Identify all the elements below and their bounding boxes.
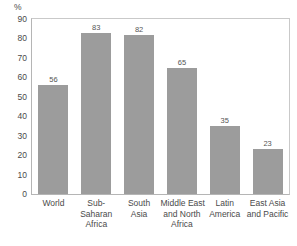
- x-axis-category-label: East Asiaand Pacific: [246, 198, 289, 219]
- category-label-line: Middle East: [161, 198, 204, 209]
- y-axis-tick-90: 90: [0, 15, 27, 24]
- x-axis-category-label: SouthAsia: [118, 198, 161, 219]
- category-label-line: East Asia: [246, 198, 289, 209]
- y-axis-tick-50: 50: [0, 92, 27, 101]
- category-label-line: Africa: [75, 219, 118, 230]
- category-label-line: South: [118, 198, 161, 209]
- bar-value-label: 82: [124, 25, 154, 34]
- bar-group: 23: [253, 19, 283, 194]
- bar-group: 56: [38, 19, 68, 194]
- bars-area: 568382653523: [32, 19, 289, 194]
- bar: [167, 68, 197, 194]
- bar-value-label: 56: [38, 75, 68, 84]
- category-label-line: Latin: [203, 198, 246, 209]
- x-axis-category-label: World: [32, 198, 75, 209]
- category-label-line: and North: [161, 209, 204, 220]
- bar-value-label: 65: [167, 58, 197, 67]
- category-label-line: Sub-: [75, 198, 118, 209]
- bar: [124, 35, 154, 194]
- bar-group: 65: [167, 19, 197, 194]
- bar: [210, 126, 240, 194]
- bar-group: 82: [124, 19, 154, 194]
- bar-value-label: 35: [210, 116, 240, 125]
- y-axis-unit-label: %: [14, 2, 22, 12]
- bar: [38, 85, 68, 194]
- y-axis-tick-80: 80: [0, 34, 27, 43]
- bar-group: 35: [210, 19, 240, 194]
- category-label-line: and Pacific: [246, 209, 289, 220]
- x-axis-category-labels: WorldSub-SaharanAfricaSouthAsiaMiddle Ea…: [32, 198, 289, 246]
- bar-chart: % 0102030405060708090 568382653523 World…: [0, 0, 297, 246]
- bar-value-label: 83: [81, 23, 111, 32]
- category-label-line: Asia: [118, 209, 161, 220]
- y-axis-tick-0: 0: [0, 190, 27, 199]
- y-axis-tick-60: 60: [0, 73, 27, 82]
- y-axis-tick-70: 70: [0, 53, 27, 62]
- bar: [81, 33, 111, 194]
- x-axis-category-label: Sub-SaharanAfrica: [75, 198, 118, 230]
- bar-group: 83: [81, 19, 111, 194]
- x-axis-category-label: LatinAmerica: [203, 198, 246, 219]
- category-label-line: World: [32, 198, 75, 209]
- y-axis-tick-labels: 0102030405060708090: [0, 18, 27, 195]
- y-axis-tick-20: 20: [0, 151, 27, 160]
- category-label-line: Saharan: [75, 209, 118, 220]
- bar: [253, 149, 283, 194]
- bar-value-label: 23: [253, 139, 283, 148]
- x-axis-category-label: Middle Eastand NorthAfrica: [161, 198, 204, 230]
- category-label-line: Africa: [161, 219, 204, 230]
- y-axis-tick-30: 30: [0, 131, 27, 140]
- y-axis-tick-40: 40: [0, 112, 27, 121]
- y-axis-tick-10: 10: [0, 170, 27, 179]
- category-label-line: America: [203, 209, 246, 220]
